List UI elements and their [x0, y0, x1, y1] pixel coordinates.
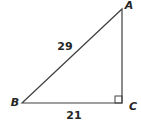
vertex-label-b: B [11, 96, 19, 109]
vertex-label-c: C [129, 100, 137, 113]
hypotenuse-length-label: 29 [57, 40, 72, 53]
triangle-svg: A B C 29 21 [0, 0, 141, 128]
triangle-outline [22, 9, 122, 103]
vertex-label-a: A [124, 0, 134, 12]
base-length-label: 21 [66, 109, 81, 122]
triangle-figure: A B C 29 21 [0, 0, 141, 128]
right-angle-mark [115, 96, 122, 103]
